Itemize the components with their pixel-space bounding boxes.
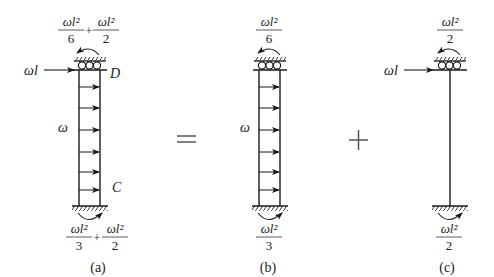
- roller-support-a: [78, 62, 100, 69]
- superposition-diagram: ωl² 6 + ωl² 2 ωl D: [0, 0, 494, 277]
- svg-text:2: 2: [446, 238, 453, 253]
- distributed-load-label-b: ω: [240, 120, 250, 135]
- point-load-label-c: ωl: [384, 63, 398, 78]
- panel-c: ωl² 2 ωl ωl² 2 (c): [384, 14, 468, 276]
- svg-text:6: 6: [68, 31, 75, 46]
- node-label-d: D: [109, 66, 120, 81]
- node-label-c: C: [112, 180, 122, 195]
- caption-c: (c): [439, 260, 455, 276]
- bottom-moment-label-c: ωl² 2: [436, 221, 462, 253]
- svg-text:ωl²: ωl²: [71, 221, 89, 236]
- roller-support-b: [258, 62, 280, 69]
- svg-text:ωl²: ωl²: [63, 14, 81, 29]
- moment-arrow-bottom-a: [78, 213, 102, 220]
- caption-a: (a): [90, 260, 106, 276]
- plus-sign: [349, 130, 368, 150]
- svg-text:ωl²: ωl²: [442, 14, 460, 29]
- distributed-load-arrows-a: [79, 87, 99, 190]
- support-hatch-bottom-b: [252, 206, 288, 211]
- svg-text:3: 3: [266, 238, 273, 253]
- panel-b: ωl² 6 ω ωl² 3: [240, 14, 288, 276]
- svg-text:ωl²: ωl²: [261, 221, 279, 236]
- moment-arrow-top-c: [438, 49, 460, 55]
- svg-text:2: 2: [112, 238, 119, 253]
- svg-text:2: 2: [447, 31, 454, 46]
- moment-arrow-top-b: [258, 49, 280, 55]
- svg-text:6: 6: [266, 31, 273, 46]
- svg-text:ωl²: ωl²: [441, 221, 459, 236]
- top-moment-label-a: ωl² 6 + ωl² 2: [58, 14, 119, 46]
- svg-text:3: 3: [76, 238, 83, 253]
- svg-text:+: +: [86, 24, 93, 38]
- distributed-load-arrows-b: [259, 87, 279, 190]
- support-hatch-bottom-c: [432, 206, 468, 211]
- equals-sign: [177, 136, 196, 142]
- distributed-load-label-a: ω: [58, 120, 68, 135]
- point-load-label-a: ωl: [24, 63, 38, 78]
- support-hatch-bottom-a: [72, 206, 108, 211]
- top-moment-label-b: ωl² 6: [256, 14, 282, 46]
- moment-arrow-bottom-c: [438, 213, 462, 220]
- roller-support-c: [438, 62, 460, 69]
- svg-text:ωl²: ωl²: [261, 14, 279, 29]
- bottom-moment-label-a: ωl² 3 + ωl² 2: [66, 221, 128, 253]
- svg-text:ωl²: ωl²: [98, 14, 116, 29]
- moment-arrow-bottom-b: [258, 213, 282, 220]
- svg-text:ωl²: ωl²: [107, 221, 125, 236]
- caption-b: (b): [260, 260, 277, 276]
- moment-arrow-top-a: [77, 49, 99, 55]
- bottom-moment-label-b: ωl² 3: [256, 221, 282, 253]
- svg-text:+: +: [94, 231, 101, 245]
- panel-a: ωl² 6 + ωl² 2 ωl D: [24, 14, 128, 276]
- svg-text:2: 2: [103, 31, 110, 46]
- top-moment-label-c: ωl² 2: [437, 14, 463, 46]
